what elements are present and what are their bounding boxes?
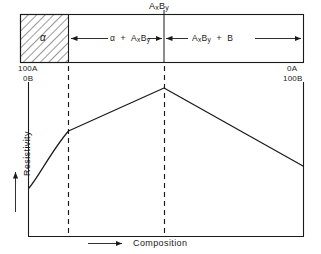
endpoint-left-line2: 0B xyxy=(23,75,33,83)
endpoint-right-line2: 100B xyxy=(283,75,302,83)
region-label-alpha-plus-compound: α + AxBy xyxy=(110,34,150,44)
phase-bar xyxy=(21,10,304,63)
resistivity-curve xyxy=(29,88,303,188)
endpoint-right-line1: 0A xyxy=(287,65,297,73)
resistivity-composition-phase-figure: AxBy α α + AxBy AxBy + B 100A 0B 0A 100B… xyxy=(0,0,321,254)
resistivity-curve-path xyxy=(29,88,303,188)
x-axis-label: Composition xyxy=(133,239,187,248)
region-label-compound-plus-b: AxBy + B xyxy=(192,34,233,44)
plot-axes xyxy=(28,82,304,237)
region-label-alpha: α xyxy=(40,33,46,43)
endpoint-left-line1: 100A xyxy=(18,65,37,73)
figure-canvas xyxy=(0,0,321,254)
phase-boundary-dashed-lines xyxy=(69,66,165,236)
compound-label-top: AxBy xyxy=(149,2,169,11)
y-axis-label: Resistivity xyxy=(23,131,32,176)
